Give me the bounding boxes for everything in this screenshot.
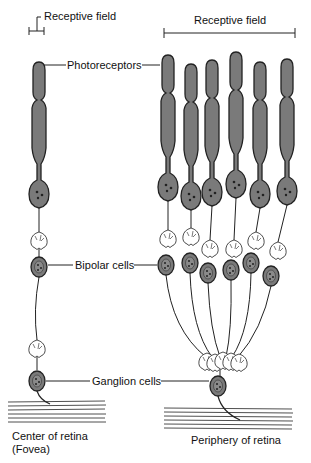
retina-diagram — [0, 0, 311, 463]
fovea-synapse-1 — [31, 232, 47, 250]
fovea-nerve-fibers — [8, 401, 106, 422]
periphery-nerve-fibers — [164, 408, 293, 429]
fovea-bipolar-cell — [31, 257, 47, 277]
periphery-bipolar-cells — [158, 253, 279, 286]
receptive-field-bracket-right — [164, 28, 295, 38]
label-photoreceptors: Photoreceptors — [67, 59, 142, 71]
label-ganglion-cells: Ganglion cells — [92, 375, 161, 387]
receptive-field-bracket-left — [29, 17, 44, 35]
caption-fovea-line1: Center of retina — [12, 430, 88, 443]
periphery-ganglion-cell — [210, 376, 226, 396]
periphery-synapses — [160, 228, 286, 260]
periphery-photoreceptors — [158, 52, 297, 210]
label-bipolar-cells: Bipolar cells — [75, 259, 134, 271]
caption-fovea: Center of retina (Fovea) — [12, 430, 88, 456]
caption-periphery: Periphery of retina — [191, 434, 281, 447]
fovea-synapse-2 — [29, 340, 45, 358]
fovea-ganglion-cell — [29, 371, 45, 391]
periphery-convergence-synapses — [199, 352, 247, 372]
label-receptive-field-right: Receptive field — [194, 14, 266, 26]
caption-fovea-line2: (Fovea) — [12, 443, 88, 456]
label-receptive-field-left: Receptive field — [44, 10, 116, 22]
fovea-photoreceptor — [29, 62, 49, 208]
